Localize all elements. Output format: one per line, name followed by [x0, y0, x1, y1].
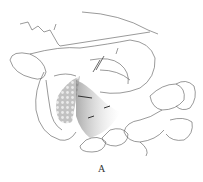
figure-caption: A — [0, 163, 203, 174]
anatomical-illustration — [0, 0, 203, 160]
line-art — [10, 12, 195, 156]
figure: A — [0, 0, 203, 182]
